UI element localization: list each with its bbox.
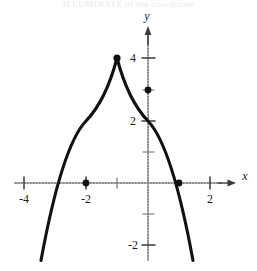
point-x-intercept-right (176, 180, 183, 187)
y-tick-label-2: 2 (130, 114, 136, 128)
x-tick-label-minus2: -2 (81, 192, 91, 206)
parabola-curve (41, 58, 193, 261)
parabola-figure: ILLUMINATE of the coordinate (0, 0, 257, 271)
y-axis (145, 26, 152, 261)
point-y-intercept (145, 87, 152, 94)
x-axis-label: x (241, 169, 248, 183)
point-x-intercept-left (83, 180, 90, 187)
y-tick-label-minus2: -2 (128, 238, 138, 252)
y-axis-label: y (143, 9, 150, 23)
x-tick-label-minus4: -4 (19, 192, 29, 206)
point-vertex (113, 54, 120, 61)
coordinate-plane: -4 -2 2 4 2 -2 x y (0, 0, 257, 271)
y-tick-label-4: 4 (130, 51, 136, 65)
x-tick-label-2: 2 (207, 192, 213, 206)
x-axis (14, 180, 236, 187)
